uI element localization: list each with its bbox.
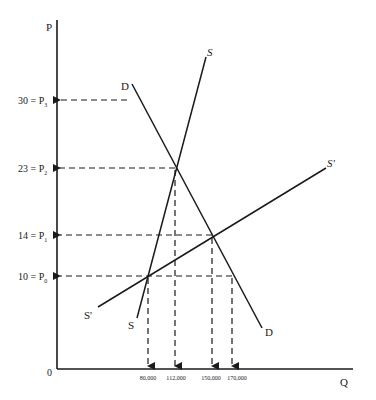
shifted-supply-curve — [98, 168, 326, 307]
quantity-label-150000: 150,000 — [201, 375, 221, 381]
origin-label: 0 — [47, 367, 52, 378]
shifted-supply-label-top: S' — [327, 157, 336, 169]
shifted-supply-label-bottom: S' — [84, 309, 92, 321]
quantity-label-112000: 112,000 — [166, 375, 185, 381]
price-label-p0: 10 = P0 — [18, 271, 47, 284]
q-axis-label: Q — [340, 376, 348, 388]
quantity-label-170000: 170,000 — [227, 375, 247, 381]
supply-label-bottom: S — [128, 319, 134, 331]
demand-curve — [132, 84, 262, 328]
supply-curve — [137, 57, 206, 318]
price-label-p3: 30 = P3 — [18, 95, 47, 108]
supply-label-top: S — [207, 46, 213, 58]
quantity-label-80000: 80,000 — [140, 375, 157, 381]
p-axis-label: P — [46, 21, 52, 33]
demand-label-bottom: D — [265, 326, 273, 338]
supply-demand-chart: P Q 0 D D S S S' S' 30 = P3 23 = P2 14 =… — [0, 0, 376, 400]
demand-label-top: D — [121, 80, 129, 92]
price-label-p2: 23 = P2 — [18, 163, 47, 176]
price-label-p1: 14 = P1 — [18, 230, 47, 243]
